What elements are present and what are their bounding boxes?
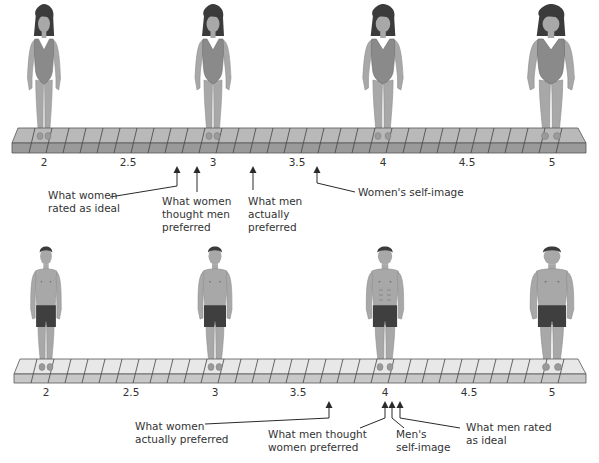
annotation-men-ideal: What men rated as ideal	[466, 421, 552, 447]
annotation-women-self-image: Women's self-image	[358, 186, 464, 199]
annotation-line: What men thought	[268, 428, 367, 441]
annotation-men-thought-women-preferred: What men thought women preferred	[268, 428, 367, 454]
annotation-line: actually	[248, 208, 302, 221]
body-image-diagram: 2 2.5 3 3.5 4 4.5 5 What women rated as …	[0, 0, 599, 463]
women-arrows	[110, 171, 355, 197]
annotation-line: What women	[162, 195, 231, 208]
annotation-line: women preferred	[268, 441, 367, 454]
annotation-line: Men's	[396, 428, 450, 441]
men-tick: 3	[212, 386, 219, 398]
annotation-line: Women's self-image	[358, 186, 464, 199]
men-tick: 4.5	[461, 386, 478, 398]
annotation-line: rated as ideal	[48, 202, 120, 215]
men-tick: 5	[549, 386, 556, 398]
men-tick: 2	[43, 386, 50, 398]
annotation-men-actually-preferred: What men actually preferred	[248, 195, 302, 234]
annotation-line: What women	[135, 420, 229, 433]
man-figure-4	[366, 247, 403, 371]
woman-figure-4	[363, 4, 403, 141]
annotation-line: What women	[48, 189, 120, 202]
man-figure-5	[530, 247, 574, 371]
men-arrows	[205, 406, 460, 428]
woman-figure-3	[195, 4, 231, 141]
annotation-line: as ideal	[466, 434, 552, 447]
men-tick: 3.5	[290, 386, 307, 398]
annotation-women-ideal: What women rated as ideal	[48, 189, 120, 215]
woman-figure-2	[27, 4, 60, 141]
men-tick: 2.5	[123, 386, 140, 398]
man-figure-3	[198, 247, 232, 371]
annotation-line: What men	[248, 195, 302, 208]
annotation-women-actually-preferred: What women actually preferred	[135, 420, 229, 446]
women-tick: 4.5	[459, 156, 476, 168]
annotation-line: actually preferred	[135, 433, 229, 446]
men-scale-board	[14, 359, 586, 383]
man-figure-2	[31, 247, 62, 371]
women-tick: 3	[210, 156, 217, 168]
annotation-line: preferred	[162, 221, 231, 234]
women-tick: 2	[41, 156, 48, 168]
women-scale-board	[12, 128, 586, 153]
annotation-line: self-image	[396, 441, 450, 454]
annotation-line: What men rated	[466, 421, 552, 434]
annotation-line: preferred	[248, 221, 302, 234]
annotation-line: thought men	[162, 208, 231, 221]
annotation-women-thought-men-preferred: What women thought men preferred	[162, 195, 231, 234]
women-tick: 3.5	[289, 156, 306, 168]
annotation-men-self-image: Men's self-image	[396, 428, 450, 454]
women-tick: 2.5	[120, 156, 137, 168]
women-tick: 5	[549, 156, 556, 168]
women-tick: 4	[380, 156, 387, 168]
woman-figure-5	[528, 4, 575, 141]
men-tick: 4	[382, 386, 389, 398]
